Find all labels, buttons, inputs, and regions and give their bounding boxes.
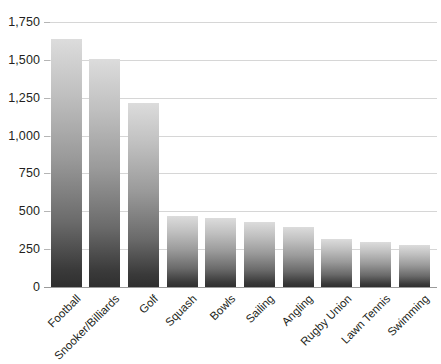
x-axis-tick-label: Sailing [244,293,277,326]
y-axis-tick-label: 0 [0,281,40,294]
y-tick-mark [44,249,50,250]
y-axis-tick-label: 750 [0,167,40,180]
bar[interactable] [399,245,430,287]
y-axis-tick-label: 1,250 [0,92,40,105]
x-axis-tick-label: Angling [280,293,315,328]
y-tick-mark [44,60,50,61]
x-axis-tick-label: Bowls [208,293,238,323]
y-tick-mark [44,136,50,137]
y-axis-tick-label: 500 [0,205,40,218]
x-axis-tick-label: Football [46,293,83,330]
axis-baseline [44,287,437,288]
x-axis-tick-label: Golf [137,293,160,316]
y-axis-tick-label: 1,500 [0,54,40,67]
y-axis-tick-label: 250 [0,243,40,256]
bar[interactable] [89,59,120,287]
bar[interactable] [205,218,236,287]
x-axis-tick-label: Snooker/Billiards [53,293,122,362]
bar[interactable] [128,103,159,287]
x-axis-tick-label: Lawn Tennis [340,293,393,346]
y-axis-tick-label: 1,750 [0,16,40,29]
y-tick-mark [44,98,50,99]
gridline [50,22,437,23]
bar[interactable] [244,222,275,287]
y-tick-mark [44,211,50,212]
bar[interactable] [321,239,352,287]
x-axis-tick-label: Swimming [386,293,432,339]
bar[interactable] [283,227,314,287]
bar-chart: 02505007501,0001,2501,5001,750 FootballS… [0,0,441,364]
y-tick-mark [44,22,50,23]
x-axis-tick-label: Squash [164,293,200,329]
plot-area [50,22,437,287]
y-axis-tick-label: 1,000 [0,130,40,143]
bar[interactable] [167,216,198,287]
y-tick-mark [44,173,50,174]
bar[interactable] [360,242,391,287]
bar[interactable] [51,39,82,287]
x-axis-tick-label: Rugby Union [299,293,354,348]
